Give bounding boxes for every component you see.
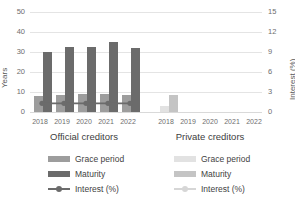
bar-private-maturity-2018 bbox=[169, 95, 178, 112]
legend-label-private-grace: Grace period bbox=[201, 154, 250, 164]
legend-official: Grace period Maturity Interest (%) bbox=[48, 151, 124, 196]
group-title-private: Private creditors bbox=[152, 131, 268, 142]
legend-item-official-grace[interactable]: Grace period bbox=[48, 151, 124, 166]
y-axis-right-tick-0: 0 bbox=[268, 108, 282, 116]
bar-official-maturity-2021 bbox=[109, 42, 118, 112]
x-tick-private-2019: 2019 bbox=[177, 118, 199, 126]
x-tick-official-2018: 2018 bbox=[29, 118, 51, 126]
plot-area bbox=[30, 8, 262, 114]
legend-item-private-maturity[interactable]: Maturity bbox=[174, 166, 250, 181]
legend-swatch-maturity-icon bbox=[48, 171, 70, 177]
group-title-official: Official creditors bbox=[26, 131, 142, 142]
y-axis-left-tick-10: 10 bbox=[8, 88, 25, 96]
y-axis-right-tick-9: 9 bbox=[268, 48, 282, 56]
y-axis-left-tick-40: 40 bbox=[8, 28, 25, 36]
legend-label-private-interest: Interest (%) bbox=[201, 184, 245, 194]
y-axis-left-tick-20: 20 bbox=[8, 68, 25, 76]
y-axis-left-tick-50: 50 bbox=[8, 8, 25, 16]
y-axis-right-tick-12: 12 bbox=[268, 28, 282, 36]
y-axis-right-tick-3: 3 bbox=[268, 88, 282, 96]
y-axis-right-tick-15: 15 bbox=[268, 8, 282, 16]
gridline-50 bbox=[30, 12, 262, 13]
bar-official-grace-2020 bbox=[78, 94, 87, 112]
bar-official-grace-2018 bbox=[34, 96, 43, 112]
chart-container: Years Interest (%) 50 40 30 20 10 0 15 1… bbox=[0, 0, 295, 199]
legend-private: Grace period Maturity Interest (%) bbox=[174, 151, 250, 196]
x-tick-official-2020: 2020 bbox=[73, 118, 95, 126]
x-tick-private-2022: 2022 bbox=[243, 118, 265, 126]
x-tick-official-2021: 2021 bbox=[95, 118, 117, 126]
bar-official-grace-2019 bbox=[56, 95, 65, 112]
legend-item-official-interest[interactable]: Interest (%) bbox=[48, 181, 124, 196]
bar-official-maturity-2018 bbox=[43, 52, 52, 112]
legend-label-official-interest: Interest (%) bbox=[75, 184, 119, 194]
legend-label-official-grace: Grace period bbox=[75, 154, 124, 164]
bar-official-grace-2022 bbox=[122, 95, 131, 112]
y-axis-right-tick-6: 6 bbox=[268, 68, 282, 76]
legend-item-private-grace[interactable]: Grace period bbox=[174, 151, 250, 166]
gridline-40 bbox=[30, 32, 262, 33]
bar-official-maturity-2022 bbox=[131, 48, 140, 112]
legend-swatch-grace-private-icon bbox=[174, 156, 196, 162]
x-tick-private-2018: 2018 bbox=[155, 118, 177, 126]
bar-private-grace-2018 bbox=[160, 106, 169, 112]
x-axis-baseline bbox=[30, 112, 262, 113]
y-axis-left-tick-30: 30 bbox=[8, 48, 25, 56]
y-axis-right-title: Interest (%) bbox=[288, 59, 295, 100]
legend-label-private-maturity: Maturity bbox=[201, 169, 231, 179]
legend-swatch-interest-line-private-icon bbox=[174, 185, 196, 192]
legend-item-official-maturity[interactable]: Maturity bbox=[48, 166, 124, 181]
x-tick-private-2020: 2020 bbox=[199, 118, 221, 126]
x-tick-official-2022: 2022 bbox=[117, 118, 139, 126]
bar-official-grace-2021 bbox=[100, 94, 109, 112]
x-tick-private-2021: 2021 bbox=[221, 118, 243, 126]
legend-label-official-maturity: Maturity bbox=[75, 169, 105, 179]
legend-swatch-grace-icon bbox=[48, 156, 70, 162]
y-axis-left-tick-0: 0 bbox=[8, 108, 25, 116]
legend-swatch-interest-line-icon bbox=[48, 185, 70, 192]
x-tick-official-2019: 2019 bbox=[51, 118, 73, 126]
legend-item-private-interest[interactable]: Interest (%) bbox=[174, 181, 250, 196]
bar-official-maturity-2019 bbox=[65, 47, 74, 112]
legend-swatch-maturity-private-icon bbox=[174, 171, 196, 177]
bar-official-maturity-2020 bbox=[87, 47, 96, 112]
